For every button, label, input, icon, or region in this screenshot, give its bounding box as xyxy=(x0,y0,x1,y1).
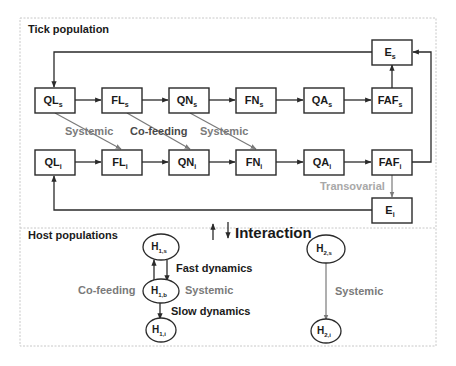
tick-population-title: Tick population xyxy=(28,23,109,35)
label-transovarial: Transovarial xyxy=(320,180,385,192)
host-nodes: H1,sH1,bH1,iH2,sH2,i xyxy=(143,234,345,343)
node-h2s: H2,s xyxy=(307,235,345,263)
node-qas: QAs xyxy=(304,88,344,113)
node-label: FAFi xyxy=(379,156,402,170)
label-host-cofeeding: Co-feeding xyxy=(78,284,135,296)
label-slow-dynamics: Slow dynamics xyxy=(171,305,250,317)
label-fast-dynamics: Fast dynamics xyxy=(176,262,252,274)
node-label: FNi xyxy=(246,156,263,170)
node-fafi: FAFi xyxy=(372,150,412,175)
node-label: QLi xyxy=(44,156,61,170)
label-cofeeding: Co-feeding xyxy=(130,125,187,137)
label-host-systemic-h2: Systemic xyxy=(335,285,383,297)
node-fni: FNi xyxy=(236,150,276,175)
node-qns: QNs xyxy=(169,88,209,113)
node-h1b: H1,b xyxy=(143,279,179,303)
node-label: FLi xyxy=(112,156,127,170)
node-es: Es xyxy=(372,40,412,65)
node-qni: QNi xyxy=(169,150,209,175)
interaction-label: Interaction xyxy=(235,224,312,241)
interaction-indicator: Interaction xyxy=(213,222,312,241)
node-h1i: H1,i xyxy=(146,318,176,342)
node-label: QNi xyxy=(178,156,197,170)
node-qls: QLs xyxy=(35,88,75,113)
tick-host-model-diagram: Tick population Host populations Systemi… xyxy=(0,0,456,366)
arrow-es-qls xyxy=(54,52,372,87)
node-ei: Ei xyxy=(372,198,412,223)
label-host-systemic-h1: Systemic xyxy=(185,284,233,296)
node-fns: FNs xyxy=(236,88,276,113)
host-populations-title: Host populations xyxy=(28,229,118,241)
node-qai: QAi xyxy=(304,150,344,175)
label-systemic-2: Systemic xyxy=(200,125,248,137)
node-label: QAi xyxy=(313,156,332,170)
node-h1s: H1,s xyxy=(143,234,179,260)
node-fli: FLi xyxy=(102,150,142,175)
arrow-fafi-es xyxy=(412,52,431,162)
node-qli: QLi xyxy=(35,150,75,175)
node-fafs: FAFs xyxy=(372,88,412,113)
label-systemic-1: Systemic xyxy=(65,125,113,137)
node-fls: FLs xyxy=(102,88,142,113)
node-h2i: H2,i xyxy=(311,319,341,343)
